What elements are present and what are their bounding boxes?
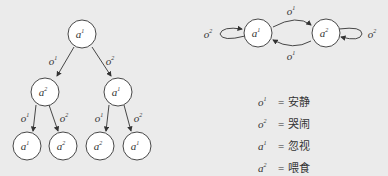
legend-row: a2=喂食 [258,156,310,176]
fsm-transition-label: o1 [287,5,296,17]
legend-row: a1=忽视 [258,134,310,156]
fsm-edges [220,20,362,46]
fsm-transition-label: o2 [368,28,377,40]
fsm-transition-label: o2 [204,28,213,40]
tree-edge-label: o2 [134,112,143,124]
tree-nodes [13,20,151,160]
fsm-states [244,19,340,47]
legend: o1=安静 o2=哭闹 a1=忽视 a2=喂食 [258,90,310,176]
legend-row: o1=安静 [258,90,310,112]
tree-edge-label: o1 [21,112,30,124]
fsm-transition-label: o1 [287,50,296,62]
tree-edge-label: o2 [60,112,69,124]
tree-edge-label: o2 [106,55,115,67]
tree-edge-label: o1 [49,55,58,67]
diagram-canvas: a1 a2 a1 a1 a2 a2 a1 o1 o2 o1 o2 o1 o2 a… [0,0,388,176]
legend-row: o2=哭闹 [258,112,310,134]
tree-edge-label: o1 [95,112,104,124]
